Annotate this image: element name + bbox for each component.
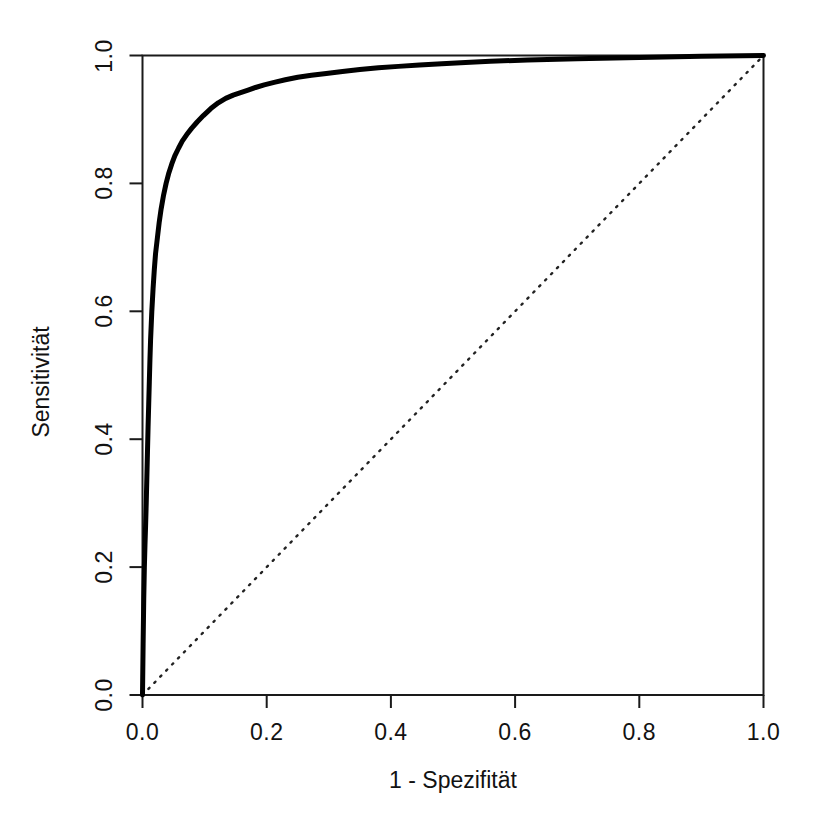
y-tick-label: 0.6	[90, 295, 117, 328]
plot-canvas	[0, 0, 816, 833]
y-tick-label: 0.8	[90, 167, 117, 200]
y-tick-label: 0.2	[90, 550, 117, 583]
x-tick-label: 0.0	[126, 719, 159, 746]
x-axis-title: 1 - Spezifität	[389, 767, 517, 794]
reference-diagonal-line	[143, 56, 764, 696]
roc-curve-figure: 0.00.20.40.60.81.0 0.00.20.40.60.81.0 1 …	[0, 0, 816, 833]
y-tick-label: 1.0	[90, 39, 117, 72]
x-tick-label: 0.2	[250, 719, 283, 746]
x-tick-label: 0.4	[374, 719, 407, 746]
y-axis-title: Sensitivität	[28, 326, 55, 437]
x-tick-label: 0.6	[498, 719, 531, 746]
y-tick-label: 0.0	[90, 678, 117, 711]
x-tick-label: 0.8	[623, 719, 656, 746]
x-tick-label: 1.0	[747, 719, 780, 746]
y-tick-label: 0.4	[90, 422, 117, 455]
